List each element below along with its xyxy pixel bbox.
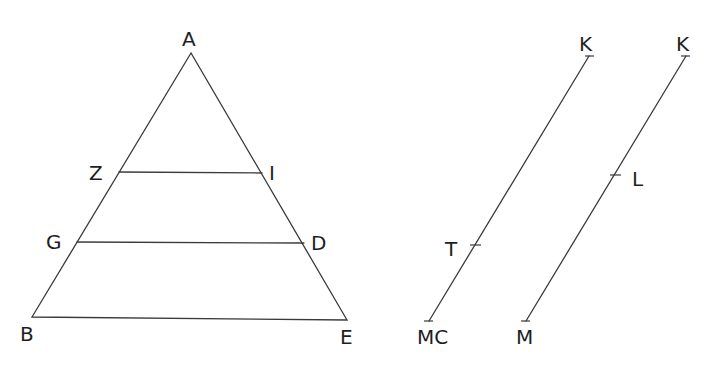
label-a: A (182, 27, 196, 51)
label-i: I (269, 161, 275, 185)
label-k2: K (676, 32, 690, 56)
segment-k-m (526, 56, 686, 321)
label-m: M (516, 325, 533, 349)
segment-zi (119, 172, 262, 173)
segment-k-mc (429, 56, 589, 321)
triangle-abe (32, 53, 347, 320)
label-z: Z (89, 161, 103, 185)
geometry-diagram: A Z I G D B E K T MC K L M (0, 0, 711, 375)
label-l: L (632, 167, 644, 191)
label-e: E (340, 325, 353, 349)
label-b: B (20, 322, 34, 346)
label-t: T (444, 237, 458, 261)
segment-gd (77, 242, 304, 243)
label-k1: K (579, 32, 593, 56)
label-g: G (46, 230, 62, 254)
label-mc: MC (417, 325, 448, 349)
label-d: D (311, 231, 326, 255)
